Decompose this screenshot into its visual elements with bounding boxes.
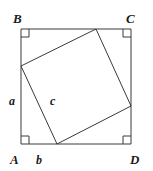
- geometry-figure: B C A D a b c: [0, 0, 153, 171]
- right-angle-mark-D: [123, 136, 131, 144]
- right-angle-mark-B: [21, 29, 29, 37]
- side-label-a: a: [9, 95, 15, 107]
- vertex-label-B: B: [13, 12, 22, 25]
- vertex-label-C: C: [126, 12, 135, 25]
- vertex-label-D: D: [130, 153, 139, 166]
- right-angle-mark-A: [21, 136, 29, 144]
- right-angle-marks-group: [21, 29, 131, 144]
- side-label-b: b: [36, 154, 42, 166]
- side-label-c: c: [50, 95, 55, 107]
- right-angle-mark-C: [123, 29, 131, 37]
- vertex-label-A: A: [10, 153, 19, 166]
- inner-tilted-square: [21, 29, 131, 144]
- outer-square-ABCD: [21, 29, 131, 144]
